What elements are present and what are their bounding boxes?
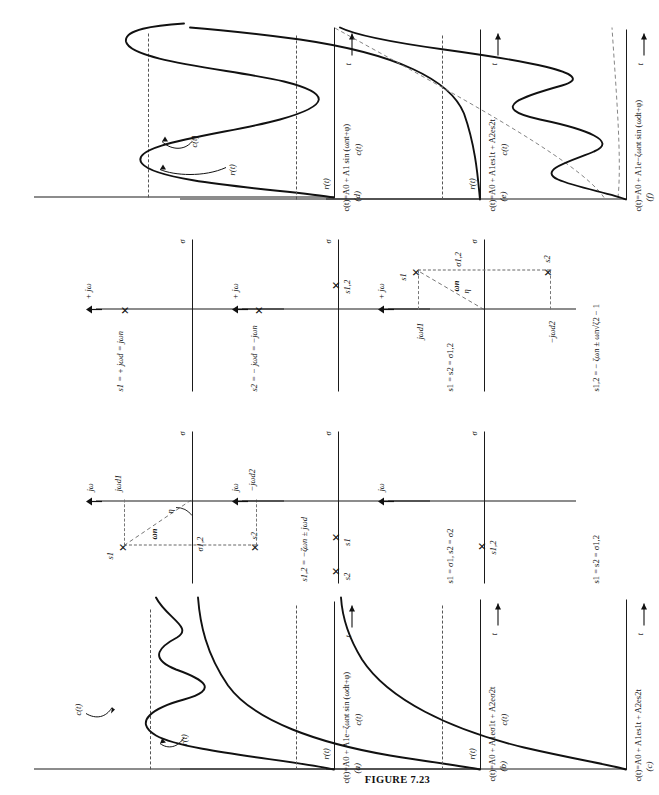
panel-c-pole-plot: jωσ✕s1,2s1 = s2 = σ1,2	[292, 417, 659, 587]
panel-f-curve-label: c(t)	[500, 143, 509, 155]
panel-d-pole-equation-1: s1 = + jωd = jωn	[116, 330, 125, 391]
panel-f-jwd1-label: jωd1	[416, 322, 425, 339]
panel-d-pole-s1-marker: ✕	[120, 305, 131, 314]
panel-c-pole-equation: s1 = s2 = σ1,2	[592, 535, 601, 583]
panel-f-equation: c(t)=A0 + A1e−ζωnt sin (ωdt+φ)	[634, 99, 643, 211]
panel-f-curve	[326, 21, 628, 199]
panel-c-x-axis-label: t	[636, 633, 645, 635]
panel-f-pole-2-label: s2	[543, 255, 552, 263]
panel-a-imag-axis-label: jω	[86, 483, 95, 491]
panel-f-reference-label: r(t)	[468, 178, 477, 189]
panel-c-response: c(t)r(t)c(t)=A0 + A1es1t + A2es2tt(c)	[292, 587, 659, 777]
panel-f-omega-n-label: ωn	[452, 280, 461, 291]
panel-f-s2-projection	[550, 270, 551, 309]
panel-a-curve-leader	[84, 695, 116, 721]
panel-f-x-axis-label: t	[636, 63, 645, 65]
panel-f-sigma12-label: σ1,2	[454, 251, 463, 266]
panel-a-imag-arrow	[86, 491, 102, 509]
panel-c-reference-label: r(t)	[468, 748, 477, 759]
panel-b-imag-axis-label: jω	[231, 483, 240, 491]
panel-f-time-arrow	[636, 25, 652, 55]
panel-e-imag-arrow	[232, 299, 248, 317]
panel-c-curve	[326, 591, 628, 769]
panel-f-pole-1-label: s1	[399, 273, 408, 281]
figure-plate-row-3: c(t)r(t)c(t)=A0 + A1es1t + A2es2tt(c)jωσ…	[292, 0, 659, 795]
panel-f-pole-equation: s1,2 = − ζωn ± ωn√ζ2 − 1	[592, 304, 601, 391]
panel-f-pole-plot: + jωσ✕s1✕s2ωnησ1,2jωd1−jωd2s1,2 = − ζωn …	[292, 225, 659, 395]
panel-f-imag-axis-label: + jω	[377, 283, 386, 299]
panel-c-real-axis	[484, 431, 485, 583]
panel-c-time-arrow	[636, 595, 652, 625]
panel-e-imag-axis-label: + jω	[231, 283, 240, 299]
panel-c-imag-axis	[388, 500, 576, 501]
panel-c-real-axis-label: σ	[470, 431, 479, 435]
panel-f-jwd2-label: −jωd2	[548, 320, 557, 343]
panel-f-id: (f)	[644, 193, 654, 202]
panel-f-omega-n-vector	[414, 193, 534, 313]
panel-c-imag-arrow	[378, 491, 394, 509]
panel-f-imag-arrow	[378, 299, 394, 317]
panel-f-theta-label: η	[462, 289, 471, 293]
panel-a-curve-label: c(t)	[74, 703, 83, 715]
panel-f-pole-2-marker: ✕	[543, 267, 554, 276]
panel-d-imag-axis-label: + jω	[84, 283, 93, 299]
panel-b-imag-arrow	[232, 491, 248, 509]
panel-f-response: c(t)r(t)c(t)=A0 + A1e−ζωnt sin (ωdt+φ)t(…	[292, 17, 659, 207]
panel-c-curve-label: c(t)	[500, 713, 509, 725]
panel-c-id: (c)	[644, 761, 654, 771]
panel-d-imag-arrow	[86, 299, 102, 317]
panel-c-pole-1-marker: ✕	[477, 541, 488, 550]
panel-c-imag-axis-label: jω	[377, 483, 386, 491]
panel-a-jwd1-label: jωd1	[114, 474, 123, 491]
figure-caption: FIGURE 7.23	[365, 774, 430, 785]
panel-c-equation: c(t)=A0 + A1es1t + A2es2t	[634, 689, 643, 781]
panel-c-pole-1-label: s1,2	[489, 540, 498, 554]
